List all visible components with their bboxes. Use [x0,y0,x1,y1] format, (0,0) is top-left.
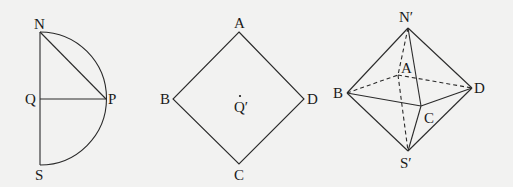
semicircle-figure: N Q P S [25,16,116,183]
edge-a-s-hidden [398,75,408,151]
label-d: D [474,80,485,96]
square-figure: A B D C Q′ [160,15,318,183]
label-p: P [108,91,116,107]
label-a: A [401,60,412,76]
geometry-figures: N Q P S A B D C Q′ N′ A B D C S′ [0,0,513,187]
label-a: A [234,15,245,31]
label-s: S [35,167,43,183]
label-b: B [333,85,343,101]
chord-np [40,32,106,99]
label-s-prime: S′ [400,155,412,171]
label-b: B [160,91,170,107]
label-d: D [307,91,318,107]
edge-n-d [408,28,472,88]
edge-c-d [421,88,472,106]
label-n-prime: N′ [399,9,413,25]
label-n: N [34,16,45,32]
center-point [239,95,241,97]
octahedron-figure: N′ A B D C S′ [333,9,485,171]
edge-b-a-hidden [347,75,398,93]
label-c: C [234,167,244,183]
square-abcd [173,32,304,164]
label-c: C [424,110,434,126]
label-q: Q [25,91,36,107]
label-q-prime: Q′ [234,99,248,115]
